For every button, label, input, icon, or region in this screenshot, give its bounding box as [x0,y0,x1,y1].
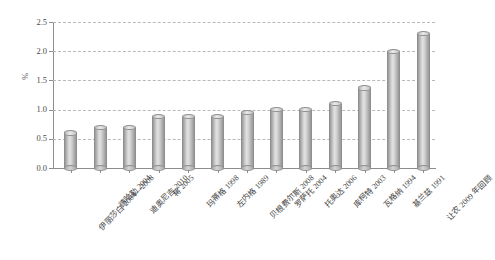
bar [417,34,430,168]
x-axis-tick-label: 德哈勒 2004 [117,174,153,210]
bar [299,110,312,168]
y-axis-tick-label: 0.5 [21,134,47,143]
bar [94,127,107,168]
y-axis-tick-label: 0.0 [21,164,47,173]
bar [182,117,195,168]
y-axis-tick-label: 1.5 [21,76,47,85]
bar [329,104,342,168]
bar [211,117,224,168]
bar [123,127,136,168]
y-axis-tick-label: 2.5 [21,18,47,27]
bar [241,113,254,168]
x-axis-tick-label: 让农 2009 年回顾 [446,174,495,223]
y-axis-tick-mark [49,168,53,169]
x-axis-tick-label: 蒋 2005 [171,174,196,199]
y-axis-tick-label: 2.0 [21,47,47,56]
bar [152,117,165,168]
plot-area [53,22,435,168]
y-axis-tick-label: 1.0 [21,105,47,114]
bar [387,51,400,168]
bar [64,133,77,168]
bar [358,88,371,168]
bar [270,110,283,168]
